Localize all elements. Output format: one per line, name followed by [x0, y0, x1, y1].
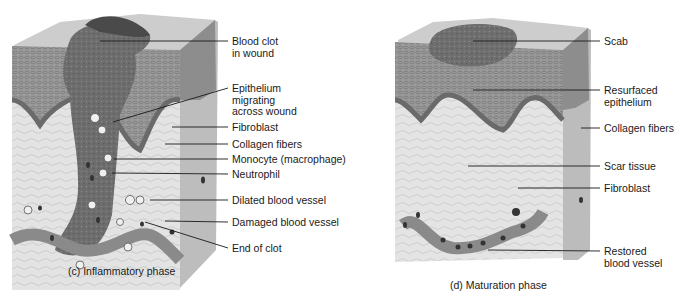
label-epithelium-migrating: Epithelium migrating across wound: [232, 83, 297, 118]
label-neutrophil: Neutrophil: [232, 169, 280, 181]
label-scar-tissue: Scar tissue: [604, 161, 656, 173]
label-collagen-fibers: Collagen fibers: [604, 123, 674, 135]
panel-maturation-phase: Scab Resurfaced epithelium Collagen fibe…: [343, 0, 687, 300]
panel-inflammatory-phase: Blood clot in wound Epithelium migrating…: [0, 0, 343, 300]
label-resurfaced-epithelium: Resurfaced epithelium: [604, 85, 658, 108]
label-scab: Scab: [604, 36, 628, 48]
caption-maturation-phase: (d) Maturation phase: [450, 279, 547, 291]
label-monocyte: Monocyte (macrophage): [232, 154, 346, 166]
label-end-of-clot: End of clot: [232, 243, 282, 255]
label-blood-clot-in-wound: Blood clot in wound: [232, 36, 278, 59]
label-restored-blood-vessel: Restored blood vessel: [604, 246, 662, 269]
label-collagen-fibers: Collagen fibers: [232, 139, 302, 151]
label-fibroblast: Fibroblast: [604, 183, 650, 195]
label-damaged-blood-vessel: Damaged blood vessel: [232, 217, 339, 229]
label-fibroblast: Fibroblast: [232, 122, 278, 134]
caption-inflammatory-phase: (c) Inflammatory phase: [68, 265, 175, 277]
label-dilated-blood-vessel: Dilated blood vessel: [232, 195, 326, 207]
